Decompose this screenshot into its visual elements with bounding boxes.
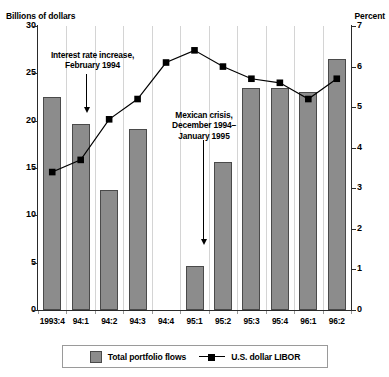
- bar-1993-4: [43, 97, 61, 310]
- right-tick-1: 1: [357, 264, 381, 273]
- right-tick-7: 7: [357, 21, 381, 30]
- bar-94-2: [100, 190, 118, 310]
- left-axis-title: Billions of dollars: [6, 11, 75, 21]
- right-tick-3: 3: [357, 183, 381, 192]
- gridline: [294, 26, 295, 310]
- chart-container: Billions of dollars Percent 051015202530…: [0, 0, 389, 377]
- chart-legend: Total portfolio flows U.S. dollar LIBOR: [62, 345, 328, 368]
- right-tick-0: 0: [357, 305, 381, 314]
- bar-96-2: [328, 59, 346, 310]
- gridline: [323, 26, 324, 310]
- annotation-interest-rate-increase: Interest rate increase, February 1994: [30, 50, 155, 71]
- bar-swatch-icon: [90, 351, 102, 363]
- legend-label-us-dollar-libor: U.S. dollar LIBOR: [231, 352, 300, 362]
- x-axis-baseline: [37, 310, 352, 311]
- right-tick-5: 5: [357, 102, 381, 111]
- bar-94-3: [129, 129, 147, 310]
- gridline: [209, 26, 210, 310]
- legend-entry-us-dollar-libor: U.S. dollar LIBOR: [199, 352, 300, 362]
- gridline: [180, 26, 181, 310]
- annotation-arrow-mexican-crisis: [203, 140, 204, 240]
- bar-95-2: [214, 162, 232, 310]
- legend-label-total-portfolio-flows: Total portfolio flows: [108, 352, 186, 362]
- gridline: [237, 26, 238, 310]
- bar-95-1: [186, 266, 204, 310]
- right-tick-4: 4: [357, 143, 381, 152]
- right-tick-6: 6: [357, 62, 381, 71]
- right-axis-line: [351, 25, 352, 311]
- legend-entry-total-portfolio-flows: Total portfolio flows: [90, 351, 186, 363]
- bar-94-1: [72, 124, 90, 310]
- annotation-arrow-interest-rate-increase: [86, 74, 87, 108]
- right-tick-2: 2: [357, 224, 381, 233]
- bar-95-4: [271, 88, 289, 310]
- annotation-mexican-crisis: Mexican crisis, December 1994– January 1…: [142, 110, 266, 141]
- x-label-96-2: 96:2: [317, 316, 357, 326]
- bar-96-1: [299, 92, 317, 310]
- gridline: [266, 26, 267, 310]
- line-marker-swatch-icon: [199, 352, 225, 362]
